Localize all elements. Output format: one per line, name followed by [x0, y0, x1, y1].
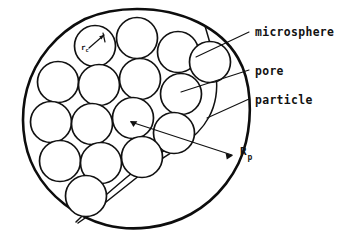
label-microsphere: microsphere — [255, 25, 334, 39]
microsphere-group — [31, 18, 231, 217]
particle-schematic-svg: r c R p microsphere pore particle — [0, 0, 362, 243]
microsphere — [161, 74, 202, 115]
microsphere — [122, 137, 163, 178]
microsphere — [38, 62, 79, 103]
microsphere — [113, 98, 154, 139]
microsphere-radius-subscript: c — [86, 47, 89, 53]
microsphere — [40, 141, 81, 182]
microsphere — [31, 102, 72, 143]
microsphere — [120, 59, 161, 100]
microsphere — [190, 42, 231, 83]
particle-radius-subscript: p — [248, 153, 253, 162]
microsphere — [79, 65, 120, 106]
label-particle: particle — [255, 93, 313, 107]
microsphere — [72, 104, 113, 145]
microsphere — [117, 18, 158, 59]
microsphere — [66, 176, 107, 217]
label-pore: pore — [255, 64, 284, 78]
diagram-figure: r c R p microsphere pore particle — [0, 0, 362, 243]
particle-radius-symbol: R — [240, 145, 247, 158]
particle-radius-label: R p — [240, 145, 253, 162]
